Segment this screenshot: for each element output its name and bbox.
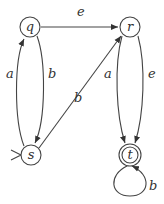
edge-label-r-t-e: e (148, 66, 156, 81)
state-q: q (20, 17, 40, 37)
state-label-r: r (127, 19, 134, 34)
edge-label-s-r: b (74, 90, 82, 105)
state-r: r (120, 17, 140, 37)
edge-r-t-e: e (135, 36, 156, 143)
edge-q-r: e (41, 4, 118, 27)
edge-s-r: b (39, 36, 121, 148)
initial-arrow (11, 150, 21, 160)
edge-s-q: a (6, 39, 24, 146)
edge-t-t: b (114, 166, 158, 196)
automaton-diagram: e a b b a e b q r s (0, 0, 164, 204)
state-t: t (119, 144, 141, 166)
edge-label-q-s: b (48, 66, 56, 81)
state-label-t: t (127, 147, 133, 162)
edge-label-r-t-a: a (104, 66, 112, 81)
edge-q-s: b (35, 36, 56, 143)
edge-r-t-a: a (104, 36, 125, 143)
edge-label-t-t: b (149, 178, 157, 193)
edge-label-s-q: a (6, 66, 14, 81)
state-s: s (21, 145, 41, 165)
state-label-s: s (28, 147, 35, 162)
edge-label-q-r: e (77, 4, 85, 19)
state-label-q: q (26, 19, 34, 34)
